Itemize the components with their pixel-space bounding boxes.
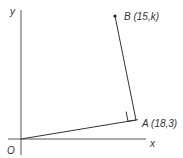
- point-b-dot: [113, 14, 116, 17]
- x-axis-label: x: [149, 138, 156, 149]
- segment-ab: [115, 16, 136, 120]
- origin-label: O: [7, 145, 15, 156]
- point-b-label: B (15,k): [124, 11, 159, 22]
- y-axis-label: y: [9, 6, 16, 17]
- right-angle-marker: [126, 112, 138, 122]
- coordinate-diagram: y x O B (15,k) A (18,3): [0, 0, 183, 158]
- segment-oa: [21, 120, 136, 139]
- point-a-label: A (18,3): [141, 118, 177, 129]
